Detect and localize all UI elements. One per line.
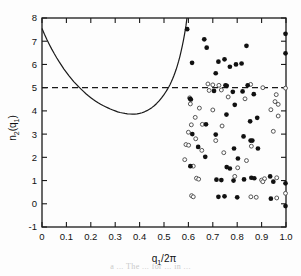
data-point-open [207,89,211,93]
filled-circle-markers [185,27,288,209]
data-point-filled [188,97,193,102]
data-point-open [226,95,230,99]
y-tick-label: 7 [32,36,37,47]
data-point-open [197,106,201,110]
y-tick-label: 5 [32,82,37,93]
data-point-open [236,166,240,170]
data-point-filled [204,122,209,127]
data-point-open [271,129,275,133]
data-point-open [276,102,280,106]
y-axis-label-close: ) [7,115,18,118]
data-point-open [222,151,226,155]
y-tick-label: 4 [32,105,37,116]
data-point-filled [185,27,190,32]
data-point-open [193,115,197,119]
data-point-filled [283,31,288,36]
data-point-filled [216,194,221,199]
data-point-filled [241,134,246,139]
data-point-filled [230,90,235,95]
data-point-open [220,124,224,128]
data-point-filled [242,177,247,182]
data-point-open [261,86,265,90]
data-point-filled [251,92,256,97]
theory-curve [42,18,187,114]
data-point-filled [283,51,288,56]
data-point-open [188,102,192,106]
data-point-open [275,196,279,200]
data-point-filled [269,196,274,201]
data-point-filled [239,61,244,66]
data-point-filled [203,155,208,160]
scatter-plot: 00.10.20.30.40.50.60.70.80.91.0 -1012345… [0,0,301,276]
data-point-open [243,97,247,101]
data-point-filled [204,45,209,50]
data-point-filled [256,146,261,151]
data-point-open [187,143,191,147]
data-point-open [183,158,187,162]
y-tick-label: 8 [32,12,37,23]
x-tick-label: 0 [39,231,44,242]
data-point-filled [252,176,257,181]
data-point-open [200,148,204,152]
data-point-open [245,159,249,163]
y-tick-labels: -1012345678 [29,12,37,232]
x-tick-label: 0.5 [157,231,170,242]
data-point-open [186,130,190,134]
data-point-filled [222,194,227,199]
data-point-filled [234,62,239,67]
y-tick-label: 3 [32,129,37,140]
data-point-filled [188,164,193,169]
data-point-filled [190,132,195,137]
data-point-filled [235,195,240,200]
figure-container: 00.10.20.30.40.50.60.70.80.91.0 -1012345… [0,0,301,276]
data-point-filled [222,57,227,62]
data-point-filled [228,64,233,69]
data-point-open [189,123,193,127]
data-point-open [269,108,273,112]
x-tick-label: 0.1 [60,231,73,242]
x-tick-labels: 00.10.20.30.40.50.60.70.80.91.0 [39,231,292,242]
data-point-filled [236,156,241,161]
data-point-open [254,195,258,199]
y-axis-label-open: (q [7,122,18,131]
y-tick-label: 1 [32,175,37,186]
data-point-filled [213,132,218,137]
caption-faint: a ... The ... for ... in ... [0,262,301,276]
data-point-filled [219,178,224,183]
y-tick-label: 0 [32,198,37,209]
data-point-filled [250,138,255,143]
x-tick-label: 0.7 [206,231,219,242]
data-point-filled [283,204,288,209]
y-tick-label: 2 [32,152,37,163]
data-point-open [206,82,210,86]
x-tick-label: 0.9 [255,231,268,242]
data-point-filled [232,103,237,108]
data-point-open [191,195,195,199]
data-point-open [284,86,288,90]
y-axis-label: n2(q1) [7,115,20,141]
data-point-filled [213,71,218,76]
data-point-open [276,114,280,118]
data-point-filled [244,44,249,49]
data-point-open [274,93,278,97]
data-point-open [219,88,223,92]
data-point-open [197,177,201,181]
x-tick-label: 0.3 [109,231,122,242]
data-point-open [211,83,215,87]
data-point-filled [212,89,217,94]
data-point-filled [255,116,260,121]
x-tick-label: 1.0 [279,231,292,242]
data-point-open [194,137,198,141]
data-point-filled [216,59,221,64]
data-point-open [249,144,253,148]
data-point-filled [245,83,250,88]
data-point-open [261,180,265,184]
data-point-filled [248,119,253,124]
x-tick-label: 0.2 [84,231,97,242]
data-point-filled [268,174,273,179]
data-point-open [284,191,288,195]
data-point-open [275,176,279,180]
data-point-filled [231,178,236,183]
data-point-open [233,174,237,178]
data-point-filled [196,145,201,150]
